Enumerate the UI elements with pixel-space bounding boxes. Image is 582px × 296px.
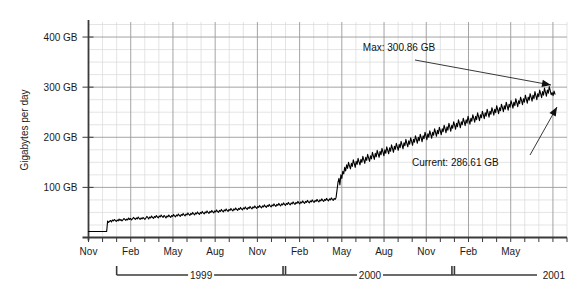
chart-container: 100 GB200 GB300 GB400 GB NovFebMayAugNov… <box>0 0 582 296</box>
x-axis-tick-label-7: Aug <box>375 246 393 257</box>
x-axis-tick-label-9: Feb <box>460 246 478 257</box>
y-axis-tick-label-0: 100 GB <box>44 182 78 193</box>
x-axis-tick-label-5: Feb <box>291 246 309 257</box>
x-axis-tick-label-10: May <box>501 246 520 257</box>
x-axis-tick-label-6: May <box>332 246 351 257</box>
annotation-max-label: Max: 300.86 GB <box>363 42 436 53</box>
annotation-current-label: Current: 286.61 GB <box>412 157 499 168</box>
x-axis-tick-label-1: Feb <box>122 246 140 257</box>
x-axis-tick-label-4: Nov <box>248 246 266 257</box>
y-axis-tick-label-3: 400 GB <box>44 32 78 43</box>
year-label-1999: 1999 <box>190 270 213 281</box>
year-label-2001: 2001 <box>543 270 566 281</box>
x-axis-tick-label-3: Aug <box>206 246 224 257</box>
year-label-2000: 2000 <box>359 270 382 281</box>
y-axis-title: Gigabytes per day <box>19 89 30 170</box>
x-axis-tick-label-2: May <box>163 246 182 257</box>
gigabytes-per-day-line-chart: 100 GB200 GB300 GB400 GB NovFebMayAugNov… <box>0 0 582 296</box>
x-axis-tick-label-8: Nov <box>417 246 435 257</box>
x-axis-tick-label-0: Nov <box>80 246 98 257</box>
y-axis-tick-label-2: 300 GB <box>44 82 78 93</box>
y-axis-tick-label-1: 200 GB <box>44 132 78 143</box>
